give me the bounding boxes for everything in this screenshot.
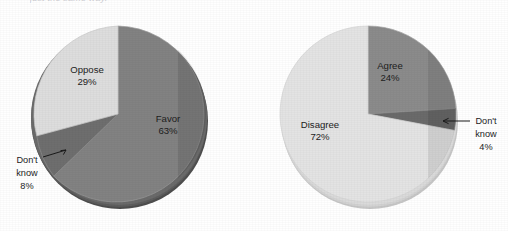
right-label-agree-name: Agree — [377, 60, 403, 71]
right-label-agree-pct: 24% — [380, 72, 400, 83]
left-label-oppose-name: Oppose — [70, 64, 104, 75]
right-pie-chart: Agree 24% Disagree 72% Don't know 4% — [280, 26, 497, 209]
left-label-favor-name: Favor — [156, 113, 181, 124]
right-label-dk-pct: 4% — [479, 142, 492, 152]
figure-two-pie-charts: just the same way. — [0, 0, 508, 231]
left-label-dk-line2: know — [16, 168, 38, 178]
left-label-dk-pct: 8% — [20, 181, 33, 191]
right-label-disagree-pct: 72% — [310, 131, 330, 142]
left-pie-chart: Oppose 29% Favor 63% Don't know 8% — [16, 26, 218, 209]
left-label-oppose-pct: 29% — [77, 76, 97, 87]
left-label-dk-line1: Don't — [16, 155, 38, 165]
left-label-favor-pct: 63% — [158, 125, 178, 136]
right-label-dk-line2: know — [475, 129, 497, 139]
pie-charts-svg: Oppose 29% Favor 63% Don't know 8% — [0, 0, 508, 231]
right-label-disagree-name: Disagree — [301, 119, 339, 130]
right-label-dk-line1: Don't — [475, 116, 497, 126]
